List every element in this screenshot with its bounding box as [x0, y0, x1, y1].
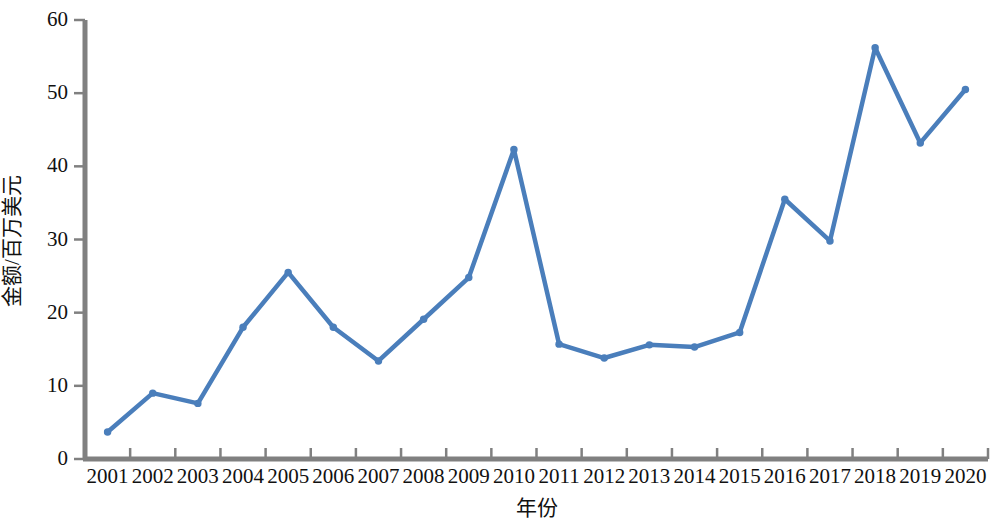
data-point-marker — [420, 316, 427, 323]
x-axis-tick-label: 2014 — [672, 466, 717, 487]
data-point-marker — [917, 139, 924, 146]
x-axis-tick-label: 2002 — [130, 466, 175, 487]
y-axis-title: 金额/百万美元 — [0, 151, 25, 331]
data-point-marker — [691, 343, 698, 350]
y-axis-tick-label: 0 — [10, 448, 68, 469]
data-point-marker — [510, 146, 517, 153]
data-point-marker — [284, 269, 291, 276]
x-axis-ticks — [85, 448, 988, 459]
data-point-marker — [555, 340, 562, 347]
x-axis-tick-label: 2019 — [898, 466, 943, 487]
data-series-line — [108, 48, 966, 432]
y-axis-tick-label: 50 — [10, 82, 68, 103]
data-point-marker — [239, 324, 246, 331]
data-point-marker — [781, 196, 788, 203]
data-point-marker — [962, 86, 969, 93]
x-axis-tick-label: 2009 — [446, 466, 491, 487]
x-axis-tick-label: 2003 — [175, 466, 220, 487]
y-axis-tick-label: 60 — [10, 9, 68, 30]
data-point-marker — [465, 274, 472, 281]
x-axis-title: 年份 — [437, 491, 637, 521]
data-point-marker — [736, 329, 743, 336]
x-axis-tick-label: 2017 — [807, 466, 852, 487]
data-point-marker — [375, 357, 382, 364]
x-axis-tick-label: 2004 — [220, 466, 265, 487]
x-axis-tick-label: 2006 — [311, 466, 356, 487]
x-axis-tick-label: 2020 — [943, 466, 988, 487]
series-polyline — [108, 48, 966, 432]
data-point-marker — [194, 400, 201, 407]
data-point-marker — [601, 354, 608, 361]
x-axis-tick-label: 2005 — [266, 466, 311, 487]
x-axis-tick-label: 2018 — [853, 466, 898, 487]
x-axis-tick-label: 2011 — [537, 466, 582, 487]
data-point-marker — [104, 428, 111, 435]
data-point-marker — [826, 237, 833, 244]
x-axis-tick-label: 2012 — [582, 466, 627, 487]
data-point-marker — [871, 44, 878, 51]
x-axis-tick-label: 2016 — [762, 466, 807, 487]
x-axis-tick-label: 2007 — [356, 466, 401, 487]
x-axis-tick-label: 2001 — [85, 466, 130, 487]
x-axis-tick-label: 2010 — [491, 466, 536, 487]
data-point-marker — [646, 341, 653, 348]
x-axis-tick-label: 2008 — [401, 466, 446, 487]
x-axis-tick-label: 2015 — [717, 466, 762, 487]
data-point-marker — [330, 324, 337, 331]
x-axis-tick-label: 2013 — [627, 466, 672, 487]
data-point-marker — [149, 389, 156, 396]
y-axis-tick-label: 10 — [10, 375, 68, 396]
